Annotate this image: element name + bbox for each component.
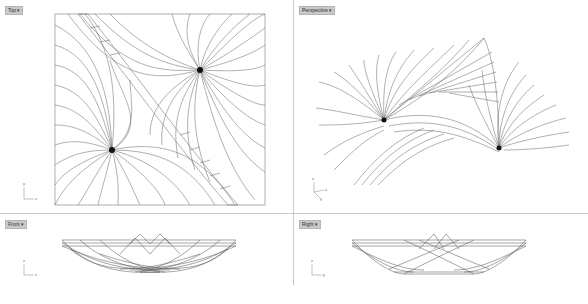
axis-label-y: y: [320, 196, 322, 201]
perspective-view-geometry: [294, 0, 588, 213]
viewport-front[interactable]: Front▾ z x: [0, 214, 293, 285]
axis-label-x: x: [35, 196, 37, 201]
axis-label-z: z: [312, 176, 314, 181]
axis-label-y: y: [323, 272, 325, 277]
axis-label-y: y: [23, 181, 25, 186]
viewport-perspective[interactable]: Perspective▾: [294, 0, 588, 213]
viewport-right[interactable]: Right▾ z y: [294, 214, 588, 285]
caption: [0, 288, 588, 304]
right-view-geometry: [294, 214, 588, 285]
axis-label-z: z: [311, 258, 313, 263]
axis-label-x: x: [325, 187, 327, 192]
axis-label-z: z: [23, 258, 25, 263]
axis-widget: z x y: [308, 180, 330, 202]
axis-widget: z x: [20, 262, 40, 280]
axis-widget: y x: [20, 185, 40, 205]
front-view-geometry: [0, 214, 293, 285]
top-view-geometry: [0, 0, 293, 213]
axis-label-x: x: [35, 272, 37, 277]
viewport-top[interactable]: Top▾: [0, 0, 293, 213]
axis-widget: z y: [308, 262, 328, 280]
